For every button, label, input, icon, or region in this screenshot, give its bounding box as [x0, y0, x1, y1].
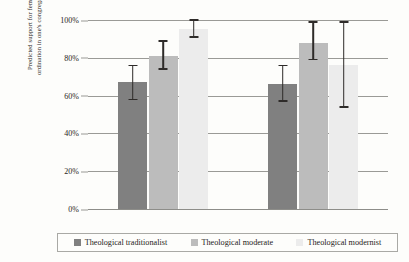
chart-figure: Predicted support for female ordination …	[0, 0, 409, 262]
legend-item-theological-moderate[interactable]: Theological moderate	[191, 238, 274, 247]
y-axis-tick-label: 20%	[17, 167, 88, 176]
y-axis-title-line-1: Predicted support for female	[25, 0, 34, 75]
error-bar-line	[193, 20, 195, 37]
chart-legend: Theological traditionalistTheological mo…	[57, 233, 398, 252]
error-bar-cap-upper	[278, 65, 287, 67]
error-bar-cap-lower	[189, 36, 198, 38]
error-bar-cap-lower	[159, 68, 168, 70]
legend-label: Theological moderate	[202, 238, 274, 247]
plot-area: 0%20%40%60%80%100%FemaleMale	[88, 20, 388, 209]
error-bar-cap-lower	[309, 59, 318, 61]
bar-male-theological-traditionalist	[268, 84, 297, 209]
bar-female-theological-modernist	[179, 29, 208, 209]
legend-item-theological-traditionalist[interactable]: Theological traditionalist	[74, 238, 168, 247]
gridline-0%	[88, 209, 388, 210]
error-bar-cap-upper	[189, 19, 198, 21]
legend-swatch-icon	[74, 239, 81, 246]
legend-label: Theological traditionalist	[85, 238, 168, 247]
legend-swatch-icon	[191, 239, 198, 246]
error-bar-cap-upper	[128, 65, 137, 67]
error-bar-cap-upper	[339, 21, 348, 23]
legend-label: Theological modernist	[307, 238, 381, 247]
error-bar-cap-lower	[128, 99, 137, 101]
error-bar-cap-upper	[159, 40, 168, 42]
error-bar-line	[343, 22, 345, 107]
error-bar-cap-upper	[309, 21, 318, 23]
y-axis-title-line-2: ordination in one's congregation	[34, 0, 43, 75]
error-bar-cap-lower	[339, 106, 348, 108]
error-bar-cap-lower	[278, 100, 287, 102]
bar-female-theological-moderate	[149, 56, 178, 209]
y-axis-tick-label: 100%	[17, 16, 88, 25]
y-axis-tick-label: 80%	[17, 53, 88, 62]
bar-female-theological-traditionalist	[118, 82, 147, 209]
legend-item-theological-modernist[interactable]: Theological modernist	[296, 238, 381, 247]
bar-male-theological-moderate	[299, 43, 328, 209]
error-bar-line	[162, 41, 164, 69]
y-axis-tick-label: 0%	[17, 205, 88, 214]
legend-swatch-icon	[296, 239, 303, 246]
y-axis-tick-label: 60%	[17, 91, 88, 100]
error-bar-line	[132, 65, 134, 99]
y-axis-tick-label: 40%	[17, 129, 88, 138]
error-bar-line	[282, 65, 284, 101]
error-bar-line	[312, 22, 314, 60]
